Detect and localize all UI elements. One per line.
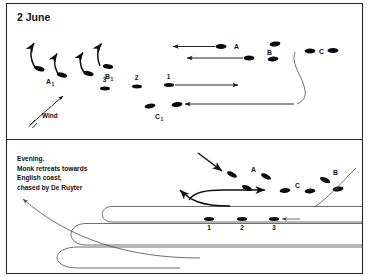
squadron-number-1: 1 (167, 73, 171, 80)
arrow-attack-southeast (198, 153, 222, 171)
ship-c1-left (144, 103, 155, 110)
label-c1: C (155, 113, 160, 120)
group-c: C (294, 48, 338, 105)
group-b-bottom: B (319, 169, 338, 184)
ship-b-bottom (319, 176, 331, 185)
track-loop-inner (102, 207, 362, 223)
track-a1-lower (55, 54, 58, 74)
group-b1: B 1 (80, 44, 113, 82)
ship-bottom-squadron-3 (269, 217, 279, 221)
label-c: C (319, 48, 324, 55)
ship-b-upper (269, 41, 280, 47)
label-b-bottom: B (333, 169, 338, 176)
ship-a-bottom-2 (260, 172, 272, 181)
label-a1-subscript: 1 (52, 81, 55, 87)
caption-line-1: Evening. (17, 155, 45, 163)
wind-indicator: Wind (29, 96, 63, 128)
page-title: 2 June (17, 11, 50, 23)
label-b1-subscript: 1 (111, 76, 114, 82)
retreat-tracks (57, 207, 362, 269)
label-a: A (234, 43, 239, 50)
label-b: B (267, 49, 272, 56)
label-a-bottom: A (251, 166, 256, 173)
ship-b1-right (103, 63, 114, 69)
label-a1: A (46, 78, 51, 85)
squadron-number-1-bottom: 1 (207, 224, 211, 231)
ship-squadron-1 (164, 83, 174, 87)
diagram-canvas: 2 June A 1 B 1 (0, 0, 368, 277)
ship-c1-right (171, 101, 182, 107)
track-c-s-curve (294, 52, 305, 104)
caption-line-3: English coast, (17, 174, 62, 182)
track-b1-right (98, 44, 102, 67)
ship-a1-left (34, 65, 45, 72)
naval-battle-diagram: 2 June A 1 B 1 (0, 0, 368, 277)
ship-squadron-3 (100, 87, 110, 91)
ship-squadron-2 (132, 85, 142, 89)
group-c1: C 1 (144, 101, 294, 122)
wind-label: Wind (42, 112, 58, 119)
track-loop-middle (71, 224, 362, 246)
squadron-number-3: 3 (103, 76, 107, 83)
panel-bottom: Evening. Monk retreats towards English c… (17, 153, 362, 268)
track-a1-upper (31, 43, 36, 68)
arrow-monk-retreat (180, 190, 230, 206)
squadron-number-3-bottom: 3 (272, 224, 276, 231)
ship-a-lower (244, 56, 255, 61)
ship-a-bottom-3 (241, 184, 253, 193)
label-c1-subscript: 1 (161, 116, 164, 122)
ship-c-left (305, 49, 316, 54)
ship-c-right (328, 48, 339, 53)
squadron-number-2: 2 (135, 74, 139, 81)
ship-bottom-squadron-2 (237, 217, 247, 221)
ship-bottom-squadron-1 (204, 217, 214, 221)
squadron-markers-bottom: 1 2 3 (204, 217, 300, 231)
ship-c-bottom-left (279, 188, 290, 194)
squadron-number-2-bottom: 2 (240, 224, 244, 231)
group-a1: A 1 (31, 43, 68, 87)
group-a-bottom: A (226, 166, 272, 192)
ship-b-lower (267, 56, 278, 62)
track-loop-outer (57, 247, 362, 268)
track-b1-left (80, 53, 84, 73)
arrow-chase-northwest (23, 199, 200, 258)
caption-line-2: Monk retreats towards (17, 165, 88, 172)
group-a: A (173, 43, 254, 60)
ship-c-bottom-right (304, 188, 315, 194)
group-c-bottom: C (189, 182, 344, 200)
label-c-bottom: C (295, 182, 300, 189)
squadron-markers-top: 3 2 1 (100, 73, 238, 91)
ship-b1-left (83, 70, 94, 77)
wind-fletching-b (33, 123, 38, 128)
arrow-c-bottom-east (189, 190, 265, 200)
group-b: B (267, 41, 281, 62)
caption-line-4: chased by De Ruyter (17, 184, 83, 192)
figure-frame (7, 4, 363, 274)
wind-fletching-a (29, 120, 35, 127)
panel-top: 2 June A 1 B 1 (17, 11, 338, 128)
ship-a-bottom-1 (226, 170, 238, 179)
ship-a-upper (216, 44, 227, 49)
